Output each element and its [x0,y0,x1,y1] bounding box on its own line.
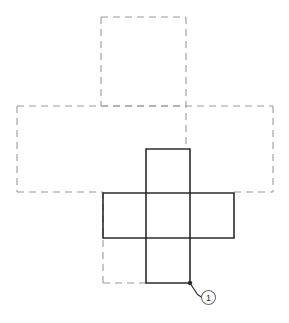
unfolded-box-net-drawing: 1 [0,0,289,323]
drawing-background [0,0,289,323]
balloon-number-label: 1 [206,293,211,303]
leader-anchor-dot [188,281,192,285]
figure-canvas: 1 [0,0,289,323]
